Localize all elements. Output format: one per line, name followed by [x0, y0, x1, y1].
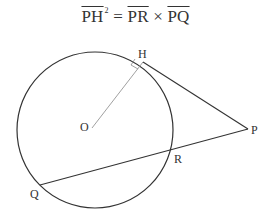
label-o: O [80, 120, 89, 134]
geometry-diagram: H O P R Q [0, 0, 271, 209]
label-q: Q [30, 187, 39, 201]
tangent-ph [143, 62, 248, 129]
radius-oh [92, 62, 143, 128]
label-p: P [251, 123, 258, 137]
label-r: R [174, 152, 182, 166]
label-h: H [138, 47, 147, 61]
secant-pq [40, 129, 248, 185]
